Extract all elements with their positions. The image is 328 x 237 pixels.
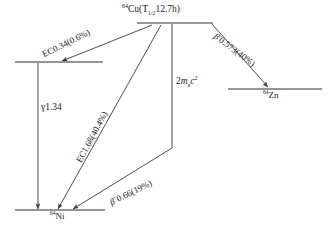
transition-label-gamma: γ1.34 [41, 103, 62, 113]
transition-arrow-beta-plus [73, 24, 172, 209]
cu64-element: Cu [128, 4, 139, 14]
decay-scheme-canvas [0, 0, 328, 237]
level-label-zn64: 64Zn [263, 90, 279, 100]
transition-label-rest-mass: 2mec2 [176, 76, 197, 89]
rest-mass-exponent: 2 [194, 75, 197, 81]
gamma-energy: 1.34 [45, 102, 62, 112]
level-label-ni64: 64Ni [50, 211, 65, 221]
level-label-cu64: 64Cu(T1/212.7h) [122, 4, 180, 17]
halflife-value: 12.7h [155, 4, 176, 14]
zn64-element: Zn [269, 90, 279, 100]
rest-mass-m-symbol: m [181, 76, 188, 86]
ni64-element: Ni [56, 211, 65, 221]
